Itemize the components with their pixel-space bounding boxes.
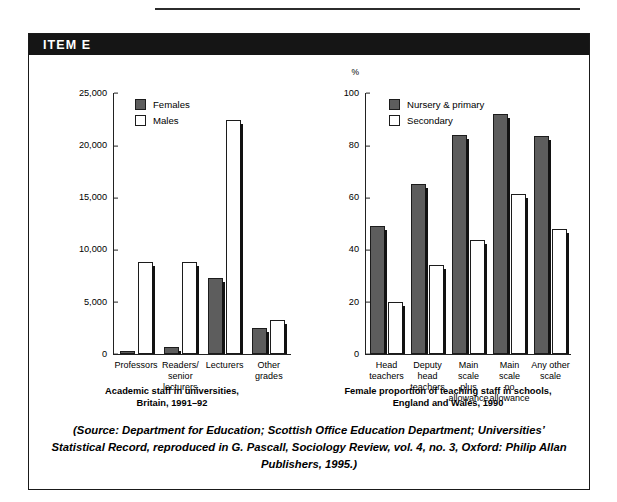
bar — [452, 135, 467, 354]
bar-group — [407, 93, 448, 354]
bar-group — [530, 93, 571, 354]
legend-label: Females — [153, 99, 190, 110]
legend-label: Secondary — [407, 115, 453, 126]
y-tick-label: 10,000 — [79, 245, 114, 254]
page: ITEM E 05,00010,00015,00020,00025,000 Pr… — [0, 0, 617, 502]
bar — [552, 229, 567, 354]
bar-group — [158, 93, 202, 354]
legend-item: Females — [135, 99, 190, 110]
legend-swatch — [135, 99, 146, 110]
legend-label: Males — [153, 115, 179, 126]
bar — [411, 184, 426, 354]
bar-groups-left — [114, 93, 291, 354]
legend-right: Nursery & primarySecondary — [389, 99, 484, 131]
y-tick-label: 0 — [102, 349, 114, 358]
y-tick-label: 20 — [349, 297, 366, 306]
legend-swatch — [135, 115, 146, 126]
y-tick-label: 100 — [344, 88, 366, 97]
legend-item: Males — [135, 115, 190, 126]
y-tick-label: 20,000 — [79, 141, 114, 150]
top-rule — [155, 8, 580, 10]
y-axis-unit-right: % — [351, 67, 366, 77]
legend-swatch — [389, 99, 400, 110]
y-tick-label: 5,000 — [84, 297, 114, 306]
y-tick-label: 0 — [354, 349, 366, 358]
legend-item: Nursery & primary — [389, 99, 484, 110]
bar — [138, 262, 153, 354]
bar-group — [489, 93, 530, 354]
bar — [511, 194, 526, 355]
bar — [270, 320, 285, 354]
bar — [429, 265, 444, 354]
bar — [388, 302, 403, 354]
bar — [470, 240, 485, 354]
y-tick-label: 25,000 — [79, 88, 114, 97]
legend-label: Nursery & primary — [407, 99, 484, 110]
y-tick-label: 15,000 — [79, 193, 114, 202]
item-box: ITEM E 05,00010,00015,00020,00025,000 Pr… — [28, 33, 590, 490]
legend-left: FemalesMales — [135, 99, 190, 131]
bar — [226, 120, 241, 354]
bar-group — [247, 93, 291, 354]
item-label: ITEM E — [43, 38, 91, 52]
item-header-band: ITEM E — [29, 34, 589, 55]
bar — [208, 278, 223, 354]
bar-group — [114, 93, 158, 354]
plot-area-left: 05,00010,00015,00020,00025,000 Professor… — [113, 93, 291, 355]
bar-group — [366, 93, 407, 354]
bar-groups-right — [366, 93, 571, 354]
caption-right: Female proportion of teaching staff in s… — [307, 385, 589, 409]
legend-swatch — [389, 115, 400, 126]
y-tick-label: 80 — [349, 141, 366, 150]
y-tick-label: 60 — [349, 193, 366, 202]
bar — [164, 347, 179, 354]
chart-academic-staff: 05,00010,00015,00020,00025,000 Professor… — [37, 55, 307, 423]
plot-area-right: % 020406080100 Head teachersDeputy head … — [365, 93, 571, 355]
bar — [252, 328, 267, 354]
bar-group — [448, 93, 489, 354]
bar — [534, 136, 549, 354]
y-tick-label: 40 — [349, 245, 366, 254]
charts-container: 05,00010,00015,00020,00025,000 Professor… — [29, 55, 589, 423]
caption-left: Academic staff in universities, Britain,… — [37, 385, 307, 409]
chart-female-proportion: % 020406080100 Head teachersDeputy head … — [307, 55, 589, 423]
bar — [493, 114, 508, 354]
bar — [370, 226, 385, 354]
legend-item: Secondary — [389, 115, 484, 126]
bar-group — [203, 93, 247, 354]
bar — [182, 262, 197, 354]
source-citation: (Source: Department for Education; Scott… — [51, 422, 567, 473]
